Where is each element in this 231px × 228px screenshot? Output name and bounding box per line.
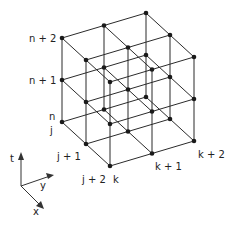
grid-edge xyxy=(86,132,128,145)
grid-node xyxy=(126,129,131,134)
grid-node xyxy=(60,120,65,125)
grid-edge xyxy=(62,110,104,123)
grid-edge xyxy=(62,122,86,144)
grid-edge xyxy=(128,119,170,132)
grid-edge xyxy=(62,26,104,39)
grid-edge xyxy=(152,141,194,154)
grid-edge xyxy=(152,99,194,112)
grid-node xyxy=(108,164,113,169)
grid-edge xyxy=(146,97,170,119)
grid-edge xyxy=(128,35,170,48)
x-axis xyxy=(21,186,40,205)
grid-edge xyxy=(86,102,110,124)
grid-edge xyxy=(128,77,170,90)
grid-node xyxy=(108,80,113,85)
lattice-svg: n + 2 n + 1 n j j + 1 j + 2 k k + 1 k + … xyxy=(0,0,231,228)
axes-triad-icon xyxy=(18,152,54,209)
grid-edge xyxy=(146,13,170,35)
grid-node xyxy=(102,23,107,28)
lattice-diagram: n + 2 n + 1 n j j + 1 j + 2 k k + 1 k + … xyxy=(0,0,231,228)
grid-edge xyxy=(104,68,128,90)
grid-edge xyxy=(62,80,86,102)
grid-node xyxy=(84,58,89,63)
label-k: k xyxy=(113,174,119,185)
grid-node xyxy=(168,33,173,38)
grid-node xyxy=(192,139,197,144)
grid-node xyxy=(168,75,173,80)
grid-edge xyxy=(110,112,152,125)
grid-edge xyxy=(86,90,128,103)
grid-edge xyxy=(86,48,128,61)
axis-label-x: x xyxy=(33,206,39,217)
grid-node xyxy=(108,122,113,127)
grid-node xyxy=(84,142,89,147)
label-k-plus-1: k + 1 xyxy=(155,161,182,172)
axis-label-t: t xyxy=(10,153,14,164)
y-axis-arrowhead-icon xyxy=(46,173,54,179)
grid-edge xyxy=(128,132,152,154)
t-axis-arrowhead-icon xyxy=(18,152,24,160)
grid-edge xyxy=(152,57,194,70)
label-n: n xyxy=(49,111,55,122)
grid-node xyxy=(150,67,155,72)
label-j: j xyxy=(49,125,53,136)
grid-edge xyxy=(170,119,194,141)
grid-node xyxy=(102,107,107,112)
grid-node xyxy=(60,36,65,41)
grid-node xyxy=(150,151,155,156)
grid-node xyxy=(126,45,131,50)
grid-node xyxy=(192,55,197,60)
grid-edge xyxy=(104,13,146,26)
grid-edge xyxy=(146,55,170,77)
grid-edge xyxy=(170,77,194,99)
axis-label-y: y xyxy=(40,180,46,191)
grid-edge xyxy=(62,38,86,60)
grid-nodes xyxy=(60,11,197,169)
grid-node xyxy=(144,95,149,100)
grid-edge xyxy=(86,144,110,166)
grid-edge xyxy=(128,48,152,70)
grid-edge xyxy=(110,154,152,167)
grid-edge xyxy=(104,110,128,132)
grid-edge xyxy=(62,68,104,81)
grid-edge xyxy=(170,35,194,57)
label-n-plus-2: n + 2 xyxy=(29,33,56,44)
grid-node xyxy=(150,109,155,114)
grid-edge xyxy=(104,55,146,68)
grid-node xyxy=(102,65,107,70)
label-n-plus-1: n + 1 xyxy=(29,75,56,86)
grid-edge xyxy=(104,26,128,48)
grid-node xyxy=(144,11,149,16)
label-j-plus-1: j + 1 xyxy=(56,151,81,162)
grid-edge xyxy=(86,60,110,82)
grid-node xyxy=(144,53,149,58)
label-k-plus-2: k + 2 xyxy=(198,149,225,160)
grid-edge xyxy=(128,90,152,112)
grid-node xyxy=(126,87,131,92)
grid-node xyxy=(192,97,197,102)
grid-node xyxy=(84,100,89,105)
label-j-plus-2: j + 2 xyxy=(81,174,106,185)
grid-node xyxy=(168,117,173,122)
grid-node xyxy=(60,78,65,83)
